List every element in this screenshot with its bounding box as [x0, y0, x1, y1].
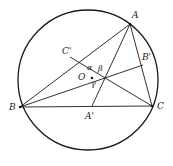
point-label-C: C — [157, 102, 164, 111]
circumscribed-circle — [18, 10, 158, 150]
vertex-dot-C — [151, 105, 153, 107]
side-AB — [20, 24, 130, 107]
geometry-canvas — [0, 0, 173, 166]
point-label-O: O — [78, 73, 85, 82]
angle-label-gamma: γ — [91, 80, 96, 88]
side-BC — [20, 106, 152, 107]
geometry-figure: A B C O A' B' C' α β γ — [0, 0, 173, 166]
angle-label-alpha: α — [87, 64, 92, 72]
point-label-A-prime: A' — [85, 112, 94, 121]
angle-label-beta: β — [98, 65, 103, 73]
point-label-B-prime: B' — [142, 53, 151, 62]
side-CA — [130, 24, 152, 106]
vertex-dot-B — [19, 106, 21, 108]
vertex-dot-A — [129, 23, 131, 25]
point-label-C-prime: C' — [62, 47, 71, 56]
point-label-A: A — [132, 11, 139, 20]
point-label-B: B — [9, 103, 16, 112]
